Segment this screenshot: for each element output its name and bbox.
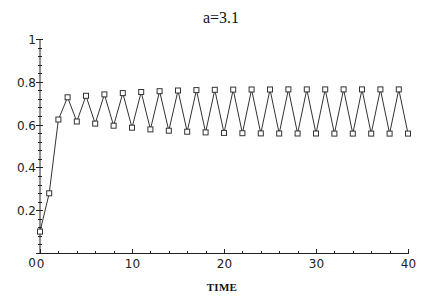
y-tick-label: 0.4: [17, 161, 36, 175]
data-point-marker: [93, 121, 98, 126]
data-point-marker: [378, 87, 383, 92]
data-point-marker: [176, 88, 181, 93]
data-point-marker: [56, 117, 61, 122]
data-series: [38, 87, 411, 234]
data-point-marker: [277, 131, 282, 136]
data-point-marker: [84, 93, 89, 98]
y-tick-label: 0.6: [17, 119, 36, 133]
x-tick-label: 40: [401, 257, 416, 271]
data-point-marker: [38, 229, 43, 234]
data-point-marker: [148, 127, 153, 132]
data-point-marker: [268, 87, 273, 92]
data-point-marker: [249, 87, 254, 92]
data-point-marker: [286, 87, 291, 92]
x-axis-label: TIME: [207, 281, 238, 293]
y-tick-label: 1: [28, 33, 36, 47]
data-point-marker: [111, 123, 116, 128]
data-point-marker: [369, 131, 374, 136]
data-point-marker: [203, 130, 208, 135]
data-point-marker: [74, 119, 79, 124]
data-point-marker: [323, 87, 328, 92]
data-point-marker: [350, 131, 355, 136]
data-point-marker: [222, 130, 227, 135]
series-line: [40, 89, 408, 231]
x-tick-label: 10: [125, 257, 140, 271]
data-point-marker: [360, 87, 365, 92]
data-point-marker: [231, 87, 236, 92]
data-point-marker: [102, 92, 107, 97]
data-point-marker: [295, 131, 300, 136]
chart-title: a=3.1: [203, 9, 239, 26]
x-tick-label: 30: [309, 257, 324, 271]
data-point-marker: [314, 131, 319, 136]
data-point-marker: [185, 129, 190, 134]
data-point-marker: [139, 90, 144, 95]
data-point-marker: [406, 131, 411, 136]
chart: a=3.1 0.20.40.60.810 010203040 TIME: [0, 0, 430, 306]
y-tick-label: 0.2: [17, 204, 36, 218]
data-point-marker: [240, 131, 245, 136]
data-point-marker: [332, 131, 337, 136]
data-point-marker: [120, 91, 125, 96]
data-point-marker: [258, 131, 263, 136]
x-tick-label: 20: [217, 257, 232, 271]
x-tick-label: 0: [37, 257, 45, 271]
data-point-marker: [47, 191, 52, 196]
y-tick-label: 0.8: [17, 76, 36, 90]
data-point-marker: [194, 88, 199, 93]
data-point-marker: [387, 131, 392, 136]
data-point-marker: [212, 87, 217, 92]
y-tick-label: 0: [28, 256, 36, 270]
data-point-marker: [396, 87, 401, 92]
data-point-marker: [166, 128, 171, 133]
x-axis: 010203040: [37, 249, 416, 271]
data-point-marker: [130, 125, 135, 130]
data-point-marker: [157, 89, 162, 94]
data-point-marker: [65, 95, 70, 100]
data-point-marker: [304, 87, 309, 92]
data-point-marker: [341, 87, 346, 92]
